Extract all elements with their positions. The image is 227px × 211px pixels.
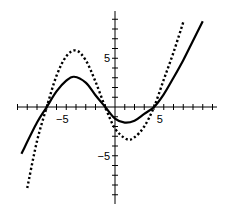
dotted-curve xyxy=(27,22,183,188)
function-plot: −555−5 xyxy=(0,0,227,211)
y-tick-label: −5 xyxy=(97,150,110,162)
x-tick-label: 5 xyxy=(157,113,163,125)
y-tick-label: 5 xyxy=(104,52,110,64)
x-tick-label: −5 xyxy=(56,113,69,125)
